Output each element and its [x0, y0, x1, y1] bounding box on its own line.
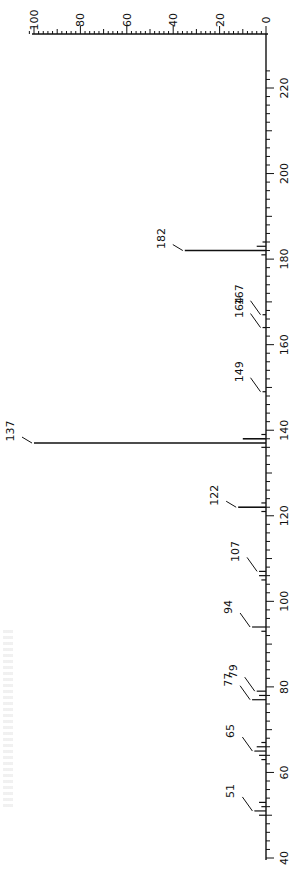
mz-tick-label: 120 [278, 505, 291, 526]
peak-label: 107 [229, 541, 242, 562]
peak-label: 65 [224, 724, 237, 738]
peak-leader-line [251, 301, 261, 315]
peak-leader-line [226, 501, 236, 507]
mz-tick-label: 200 [278, 163, 291, 184]
peak-leader-line [245, 677, 255, 691]
peak-leader-line [22, 437, 32, 443]
mz-tick-label: 60 [278, 765, 291, 779]
mz-tick-label: 40 [278, 851, 291, 865]
mz-tick-label: 80 [278, 680, 291, 694]
peak-leader-line [242, 797, 252, 811]
peak-label: 94 [222, 600, 235, 614]
mz-tick-label: 220 [278, 78, 291, 99]
peak-leader-line [247, 557, 257, 571]
intensity-tick-label: 40 [167, 13, 180, 27]
peak-label: 122 [208, 485, 221, 506]
peak-leader-line [240, 613, 250, 627]
mz-tick-label: 160 [278, 334, 291, 355]
peak-label: 182 [155, 228, 168, 249]
peak-leader-line [240, 686, 250, 700]
mass-spectrum-chart: 0204060801004060801001201401601802002205… [0, 0, 307, 871]
peak-label: 167 [233, 284, 246, 305]
peak-label: 137 [4, 421, 17, 442]
peak-leader-line [173, 245, 183, 251]
intensity-tick-label: 80 [74, 13, 87, 27]
mz-tick-label: 100 [278, 591, 291, 612]
intensity-tick-label: 60 [121, 13, 134, 27]
mz-tick-label: 140 [278, 420, 291, 441]
peak-label: 51 [224, 784, 237, 798]
mz-tick-label: 180 [278, 249, 291, 270]
peak-label: 79 [227, 664, 240, 678]
peak-leader-line [242, 737, 252, 751]
peak-leader-line [251, 314, 261, 328]
intensity-tick-label: 20 [214, 13, 227, 27]
peak-label: 149 [233, 361, 246, 382]
peak-leader-line [251, 378, 261, 392]
intensity-tick-label: 100 [28, 10, 41, 31]
intensity-tick-label: 0 [260, 17, 273, 24]
